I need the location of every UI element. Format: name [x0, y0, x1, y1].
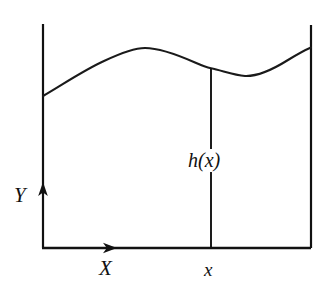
y-axis-label: Y [14, 185, 26, 206]
x-axis-label: X [99, 258, 112, 279]
x-point-label: x [204, 260, 212, 279]
diagram-svg [0, 0, 330, 298]
curve-h [43, 48, 311, 97]
figure-canvas: Y X h(x) x [0, 0, 330, 298]
height-function-label: h(x) [185, 149, 223, 172]
